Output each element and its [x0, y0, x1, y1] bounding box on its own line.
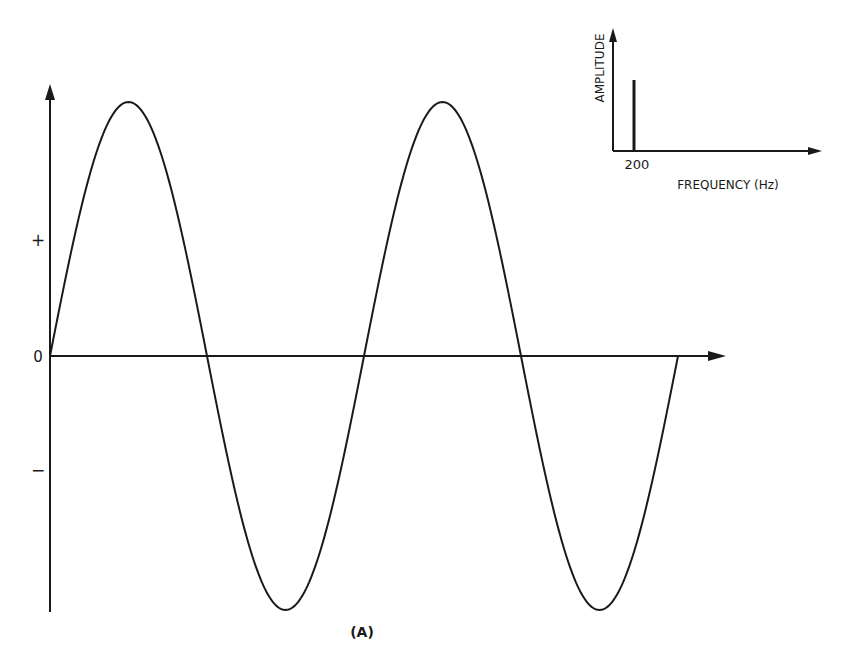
y-axis-arrow-icon	[45, 84, 55, 100]
inset-y-arrow-icon	[609, 28, 617, 42]
inset-x-arrow-icon	[808, 147, 822, 155]
inset-tick-200: 200	[625, 157, 650, 172]
inset-ylabel: AMPLITUDE	[593, 34, 607, 103]
figure-caption: (A)	[350, 624, 374, 640]
main-plot: + 0 − (A)	[31, 84, 726, 640]
inset-xlabel: FREQUENCY (Hz)	[677, 178, 779, 192]
minus-label: −	[31, 460, 45, 480]
sine-wave-figure: + 0 − (A) 200 FREQUENCY (Hz) AMPLITUDE	[0, 0, 846, 667]
x-axis-arrow-icon	[708, 351, 726, 361]
inset-spectrum: 200 FREQUENCY (Hz) AMPLITUDE	[593, 28, 822, 192]
plus-label: +	[31, 230, 45, 250]
zero-label: 0	[33, 348, 43, 366]
